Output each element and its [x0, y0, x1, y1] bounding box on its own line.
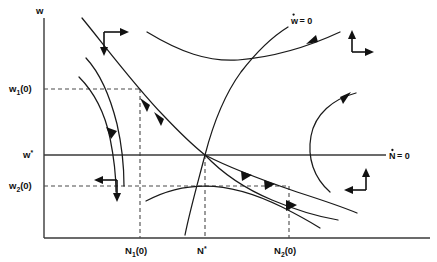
svg-text:N2(0): N2(0) — [274, 245, 296, 258]
direction-field-lower-left — [94, 176, 121, 202]
direction-field-upper-right — [348, 30, 374, 56]
svg-text:w2(0): w2(0) — [8, 180, 32, 193]
wstar-suffix: * — [30, 149, 33, 156]
svg-text:w*: w* — [22, 149, 33, 161]
w1-suffix: (0) — [20, 83, 32, 94]
y-tick-label-w1-zero: w1(0) — [8, 83, 32, 96]
y-axis-label: w — [35, 5, 44, 16]
svg-text:N= 0: N= 0 — [389, 151, 410, 161]
arrow-stable-manifold-lower-2 — [264, 180, 275, 190]
phase-diagram-figure: w w1(0) w* w2(0) N1(0) — [0, 0, 437, 262]
Ndot-base: N — [389, 151, 396, 161]
trajectory-stable-manifold-upper — [82, 18, 205, 155]
phase-diagram-canvas: w w1(0) w* w2(0) N1(0) — [0, 0, 437, 262]
w-dot-nullcline-curve — [185, 27, 288, 235]
arrow-divergent-upper-left — [106, 127, 117, 139]
N1-suffix: (0) — [136, 245, 148, 256]
wdot-eq: = 0 — [300, 16, 313, 26]
svg-text:N*: N* — [197, 245, 207, 257]
trajectory-divergent-upper-left-outer — [86, 58, 124, 186]
trajectory-lower-hump — [146, 186, 320, 228]
x-tick-label-N2-zero: N2(0) — [274, 245, 296, 258]
w2-suffix: (0) — [20, 180, 32, 191]
y-tick-label-w-star: w* — [22, 149, 33, 161]
svg-text:w1(0): w1(0) — [8, 83, 32, 96]
x-tick-label-N-star: N* — [197, 245, 207, 257]
y-tick-label-w2-zero: w2(0) — [8, 180, 32, 193]
w-dot-accent — [292, 13, 294, 15]
svg-text:w= 0: w= 0 — [290, 16, 312, 26]
N-dot-nullcline-label: N= 0 — [389, 149, 410, 161]
Nstar-suffix: * — [204, 245, 207, 252]
Ndot-eq: = 0 — [397, 151, 410, 161]
direction-field-upper-left — [100, 28, 129, 56]
arrow-divergent-right-outer — [340, 92, 351, 104]
arrow-stable-manifold-lower-1 — [241, 171, 252, 181]
trajectories-group — [79, 18, 357, 228]
N2-suffix: (0) — [285, 245, 297, 256]
direction-field-lower-right — [344, 168, 370, 194]
guide-lines-group — [44, 89, 289, 238]
trajectory-divergent-upper-right — [147, 32, 340, 60]
x-tick-label-N1-zero: N1(0) — [125, 245, 147, 258]
trajectory-divergent-right-outer — [310, 93, 356, 192]
N-dot-accent — [391, 149, 393, 151]
svg-text:N1(0): N1(0) — [125, 245, 147, 258]
w-dot-nullcline-label: w= 0 — [290, 13, 312, 25]
wdot-base: w — [290, 16, 299, 26]
arrow-stable-manifold-upper-1 — [140, 98, 150, 112]
